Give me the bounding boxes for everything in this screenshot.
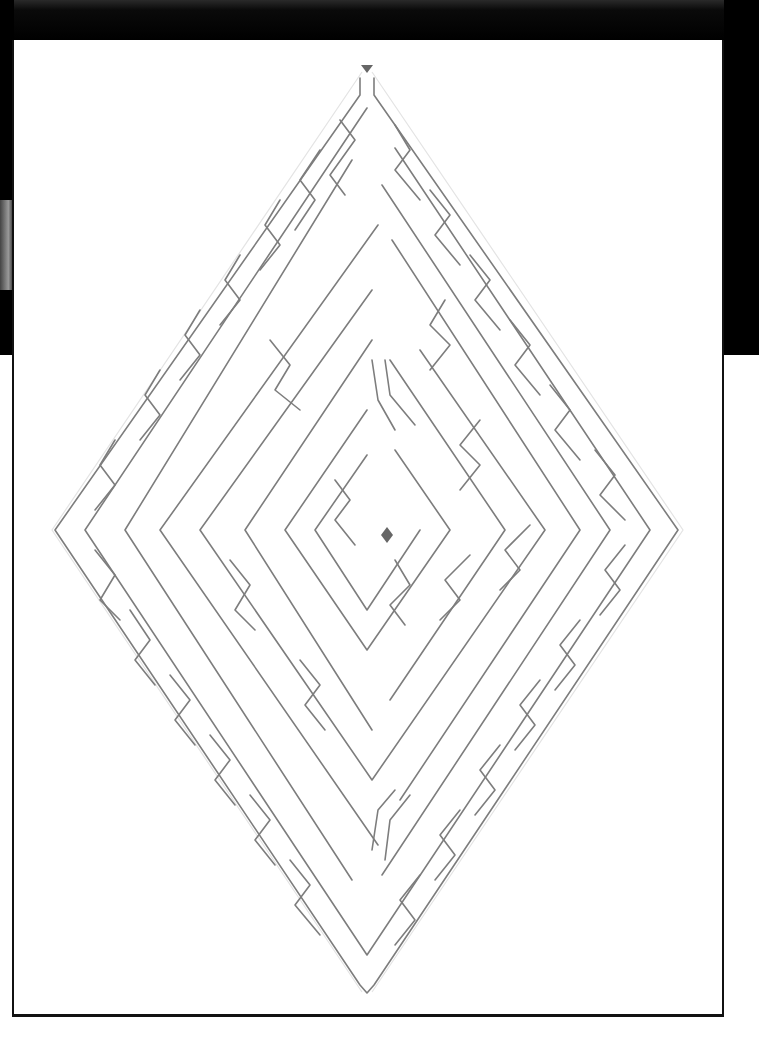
- maze-outer-wall: [55, 78, 678, 993]
- goal-marker-icon: [381, 527, 393, 543]
- maze-rings: [85, 108, 650, 955]
- start-marker-icon: [361, 65, 373, 73]
- maze-board: [0, 0, 759, 1052]
- scan-ghost-lines: [52, 72, 683, 992]
- maze-inner-walls: [95, 120, 625, 945]
